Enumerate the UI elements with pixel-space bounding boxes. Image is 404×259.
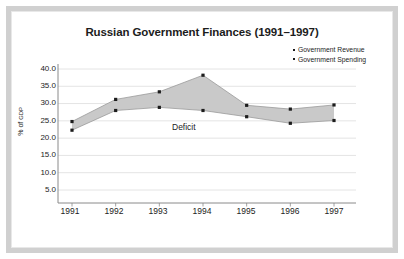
data-point-government-revenue (70, 129, 73, 132)
data-point-government-spending (332, 103, 335, 106)
data-point-government-revenue (245, 115, 248, 118)
data-point-government-revenue (289, 122, 292, 125)
data-point-government-revenue (158, 106, 161, 109)
data-point-government-spending (158, 90, 161, 93)
chart-container: Russian Government Finances (1991–1997) … (0, 0, 404, 259)
data-point-government-spending (201, 74, 204, 77)
data-point-government-spending (70, 120, 73, 123)
deficit-band (72, 75, 334, 130)
plot-area (0, 0, 404, 259)
data-point-government-revenue (201, 109, 204, 112)
x-axis-ticks (72, 203, 334, 207)
data-point-government-spending (114, 98, 117, 101)
data-point-government-revenue (114, 109, 117, 112)
data-point-government-revenue (332, 119, 335, 122)
data-point-government-spending (245, 104, 248, 107)
data-point-government-spending (289, 108, 292, 111)
deficit-annotation: Deficit (172, 122, 196, 132)
